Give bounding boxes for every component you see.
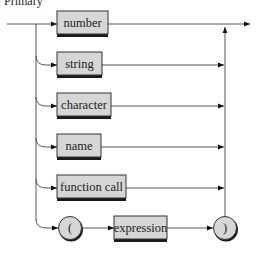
box-expression: expression [114,216,168,242]
box-function-call: function call [57,175,126,201]
box-label-character: character [61,98,108,112]
terminal-close-paren: ) [214,217,239,242]
branch-arrow-paren [36,219,58,228]
branch-arrow-function-call [36,179,57,188]
box-label-function-call: function call [60,180,123,194]
box-number: number [57,11,108,37]
box-label-string: string [65,57,94,71]
box-label-name: name [65,139,93,153]
box-string: string [57,52,102,78]
branch-arrow-string [36,56,57,65]
diagram-title: Primary [4,0,43,8]
box-label-expression: expression [114,221,168,235]
syntax-diagram: Primary number string character name [0,0,271,254]
terminal-label-open-paren: ( [68,221,72,235]
branch-arrow-name [36,138,57,147]
box-name: name [57,134,101,160]
box-label-number: number [63,16,102,30]
box-character: character [57,93,111,119]
terminal-label-close-paren: ) [223,221,227,235]
terminal-open-paren: ( [59,217,84,242]
branch-arrow-character [36,97,57,106]
